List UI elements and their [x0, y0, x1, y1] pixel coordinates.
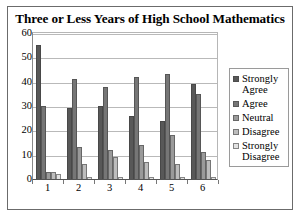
- chart-container: Three or Less Years of High School Mathe…: [7, 6, 293, 210]
- x-axis-tick-label: 2: [69, 183, 89, 194]
- bar[interactable]: [87, 177, 92, 179]
- legend-item-label: Agree: [242, 98, 268, 109]
- legend-swatch-icon: [233, 115, 239, 121]
- legend-swatch-icon: [233, 101, 239, 107]
- bar[interactable]: [118, 177, 123, 179]
- y-axis-tick-label: 40: [10, 76, 32, 87]
- x-axis-tick: [63, 180, 64, 184]
- legend-item[interactable]: Neutral: [233, 112, 285, 123]
- y-axis-tick-label: 30: [10, 101, 32, 112]
- legend-item[interactable]: Strongly Agree: [233, 73, 285, 96]
- bar-group: [64, 33, 95, 179]
- x-axis-tick: [187, 180, 188, 184]
- chart-legend: Strongly AgreeAgreeNeutralDisagreeStrong…: [229, 68, 289, 167]
- legend-swatch-icon: [233, 129, 239, 135]
- bar-group: [126, 33, 157, 179]
- legend-item-label: Strongly Disagree: [242, 140, 285, 163]
- y-axis-tick-label: 20: [10, 125, 32, 136]
- x-axis-tick-label: 1: [38, 183, 58, 194]
- x-axis-tick: [125, 180, 126, 184]
- bar-group: [95, 33, 126, 179]
- x-axis-tick: [94, 180, 95, 184]
- legend-swatch-icon: [233, 76, 239, 82]
- x-axis-tick: [156, 180, 157, 184]
- y-axis-tick-label: 60: [10, 28, 32, 39]
- bar[interactable]: [41, 106, 46, 179]
- bar[interactable]: [56, 174, 61, 179]
- plot-area: [32, 32, 218, 180]
- legend-item[interactable]: Disagree: [233, 126, 285, 137]
- x-axis-tick-label: 4: [131, 183, 151, 194]
- bar-group: [33, 33, 64, 179]
- x-axis: 123456: [32, 180, 218, 198]
- y-axis-tick-label: 0: [10, 174, 32, 185]
- legend-item-label: Neutral: [242, 112, 274, 123]
- x-axis-tick: [32, 180, 33, 184]
- x-axis-tick-label: 3: [100, 183, 120, 194]
- chart-title: Three or Less Years of High School Mathe…: [8, 11, 292, 27]
- x-axis-tick-label: 6: [193, 183, 213, 194]
- bar[interactable]: [180, 177, 185, 179]
- x-axis-tick-label: 5: [162, 183, 182, 194]
- bar-group: [188, 33, 219, 179]
- y-axis: 0102030405060: [8, 32, 32, 180]
- legend-item-label: Strongly Agree: [242, 73, 285, 96]
- legend-item[interactable]: Strongly Disagree: [233, 140, 285, 163]
- y-axis-tick-label: 50: [10, 52, 32, 63]
- legend-item-label: Disagree: [242, 126, 279, 137]
- y-axis-tick-label: 10: [10, 149, 32, 160]
- x-axis-tick: [218, 180, 219, 184]
- bar-group: [157, 33, 188, 179]
- legend-swatch-icon: [233, 143, 239, 149]
- legend-item[interactable]: Agree: [233, 98, 285, 109]
- bar[interactable]: [149, 177, 154, 179]
- bar[interactable]: [211, 177, 216, 179]
